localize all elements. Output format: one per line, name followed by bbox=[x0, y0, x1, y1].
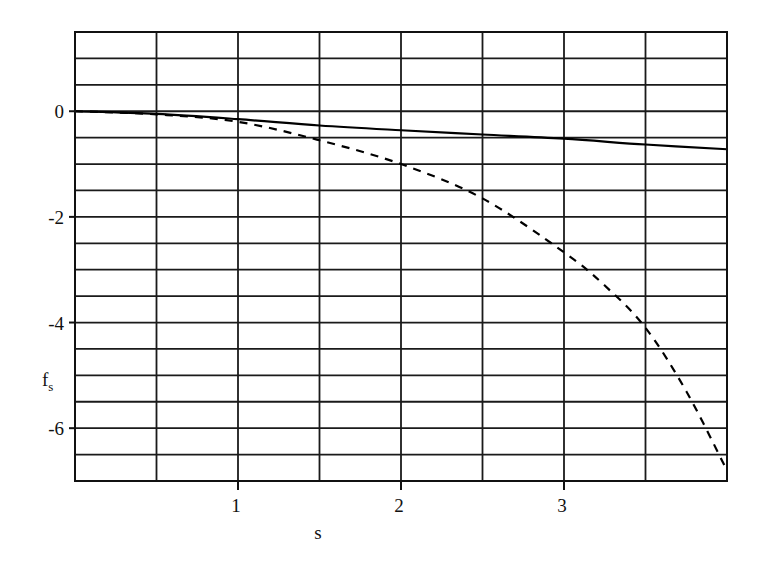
y-axis-label: fs bbox=[42, 369, 53, 394]
x-axis-label: s bbox=[314, 522, 321, 543]
grid-lines bbox=[75, 32, 727, 481]
x-tick-label: 3 bbox=[557, 495, 567, 516]
y-tick-label: -6 bbox=[48, 418, 64, 439]
x-tick-label: 1 bbox=[231, 495, 241, 516]
y-tick-label: -4 bbox=[48, 313, 64, 334]
line-chart: 0-2-4-6 123 s fs bbox=[0, 0, 763, 568]
x-tick-label: 2 bbox=[394, 495, 404, 516]
y-tick-label: -2 bbox=[48, 207, 64, 228]
y-tick-label: 0 bbox=[55, 101, 65, 122]
axis-ticks bbox=[69, 111, 564, 490]
x-tick-labels: 123 bbox=[231, 495, 567, 516]
y-axis-label-subscript: s bbox=[48, 379, 53, 394]
